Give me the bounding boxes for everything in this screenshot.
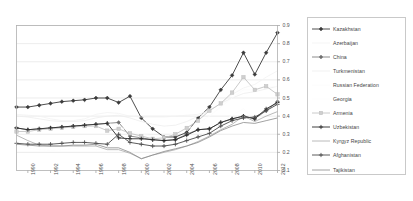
x-axis-label: 2002: [166, 163, 172, 175]
legend-item-russian-federation[interactable]: Russian Federation: [308, 78, 407, 92]
legend-label: Kazakhstan: [333, 26, 361, 32]
x-axis-label: 2004: [189, 163, 195, 175]
data-point-marker: [196, 119, 199, 122]
y-axis-label: 0.8: [283, 40, 303, 46]
x-axis-label: 1990: [30, 163, 36, 175]
legend-label: Turkmenistan: [333, 68, 365, 74]
data-point-marker: [208, 109, 211, 112]
data-point-marker: [219, 102, 222, 105]
legend-marker-icon: [312, 165, 330, 175]
data-point-marker: [128, 132, 131, 135]
legend-item-uzbekistan[interactable]: Uzbekistan: [308, 120, 407, 134]
legend-label: Armenia: [333, 110, 353, 116]
y-axis-label: 0.2: [283, 149, 303, 155]
y-axis-label: 0.6: [283, 76, 303, 82]
legend-label: Russian Federation: [333, 82, 379, 88]
data-point-marker: [264, 85, 267, 88]
x-axis-label: 1998: [121, 163, 127, 175]
legend-label: Tajikistan: [333, 167, 355, 173]
legend-item-kyrgyz-republic[interactable]: Kyrgyz Republic: [308, 134, 407, 148]
x-axis-label: 1994: [75, 163, 81, 175]
legend-item-georgia[interactable]: Georgia: [308, 92, 407, 106]
x-axis-label: 1992: [53, 163, 59, 175]
legend-marker-icon: [312, 38, 330, 48]
legend-marker-icon: [312, 66, 330, 76]
chart-legend: KazakhstanAzerbaijanChinaTurkmenistanRus…: [307, 17, 406, 175]
y-axis-label: 0.4: [283, 113, 303, 119]
legend-item-armenia[interactable]: Armenia: [308, 106, 407, 120]
legend-marker-icon: [312, 108, 330, 118]
data-point-marker: [319, 125, 323, 129]
x-axis-label: 2008: [234, 163, 240, 175]
legend-marker-icon: [312, 150, 330, 160]
legend-label: Afghanistan: [333, 152, 361, 158]
data-point-marker: [174, 133, 177, 136]
y-axis-label: 0.3: [283, 131, 303, 137]
legend-label: Kyrgyz Republic: [333, 138, 371, 144]
data-point-marker: [117, 127, 120, 130]
legend-marker-icon: [312, 94, 330, 104]
data-point-marker: [230, 91, 233, 94]
legend-label: China: [333, 54, 347, 60]
x-axis-label: 2012: [280, 163, 286, 175]
legend-label: Georgia: [333, 96, 352, 102]
legend-marker-icon: [312, 24, 330, 34]
legend-item-turkmenistan[interactable]: Turkmenistan: [308, 64, 407, 78]
legend-marker-icon: [312, 80, 330, 90]
legend-item-afghanistan[interactable]: Afghanistan: [308, 148, 407, 162]
data-point-marker: [319, 111, 322, 114]
legend-label: Uzbekistan: [333, 124, 359, 130]
x-axis-label: 1996: [98, 163, 104, 175]
legend-marker-icon: [312, 52, 330, 62]
chart-container: KazakhstanAzerbaijanChinaTurkmenistanRus…: [0, 0, 413, 201]
data-point-marker: [319, 55, 323, 59]
data-point-marker: [242, 75, 245, 78]
legend-item-kazakhstan[interactable]: Kazakhstan: [308, 22, 407, 36]
legend-marker-icon: [312, 122, 330, 132]
data-point-marker: [185, 126, 188, 129]
data-point-marker: [319, 27, 323, 31]
legend-item-china[interactable]: China: [308, 50, 407, 64]
data-point-marker: [253, 88, 256, 91]
data-point-marker: [319, 153, 323, 157]
x-axis-label: 2006: [212, 163, 218, 175]
x-axis-label: 2000: [144, 163, 150, 175]
legend-marker-icon: [312, 136, 330, 146]
x-axis-label: 2010: [257, 163, 263, 175]
legend-item-azerbaijan[interactable]: Azerbaijan: [308, 36, 407, 50]
y-axis-label: 0.5: [283, 95, 303, 101]
legend-label: Azerbaijan: [333, 40, 358, 46]
y-axis-label: 0.7: [283, 58, 303, 64]
data-point-marker: [106, 129, 109, 132]
legend-item-tajikistan[interactable]: Tajikistan: [308, 163, 407, 177]
y-axis-label: 0.9: [283, 22, 303, 28]
